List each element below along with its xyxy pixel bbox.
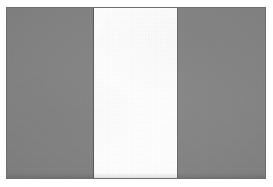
flag-band-group	[7, 8, 265, 178]
flag-band-fly	[177, 8, 265, 178]
flag-band-hoist	[7, 8, 94, 178]
image-canvas	[0, 0, 273, 187]
flag-band-middle	[94, 8, 177, 178]
flag-plate	[6, 7, 266, 179]
